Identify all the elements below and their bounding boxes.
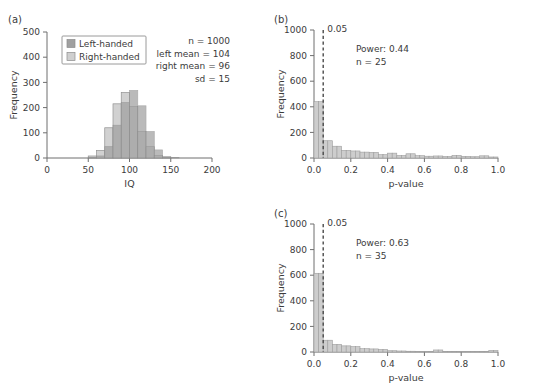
x-tick-label: 50 bbox=[83, 165, 95, 175]
y-tick-label: 600 bbox=[290, 270, 307, 280]
histogram-bar bbox=[429, 351, 434, 352]
histogram-bar bbox=[443, 351, 448, 352]
x-tick-label: 150 bbox=[162, 165, 179, 175]
chart-b: 020040060080010000.00.20.40.60.81.0p-val… bbox=[266, 0, 534, 195]
histogram-bar bbox=[105, 147, 113, 158]
histogram-bar bbox=[355, 151, 360, 158]
histogram-series-pvalue bbox=[314, 273, 498, 352]
histogram-bar bbox=[97, 156, 105, 158]
histogram-bar bbox=[369, 349, 374, 352]
histogram-bar bbox=[461, 351, 466, 352]
x-tick-label: 0.8 bbox=[454, 359, 469, 369]
x-axis-title: p-value bbox=[388, 372, 423, 383]
histogram-bar bbox=[360, 152, 365, 158]
histogram-bar bbox=[392, 351, 397, 352]
histogram-bar bbox=[493, 157, 498, 158]
x-tick-label: 100 bbox=[121, 165, 138, 175]
x-tick-label: 0.0 bbox=[307, 165, 322, 175]
histogram-bar bbox=[457, 155, 462, 158]
x-tick-label: 200 bbox=[203, 165, 220, 175]
histogram-bar bbox=[447, 351, 452, 352]
histogram-bar bbox=[406, 351, 411, 352]
histogram-series-left-handed bbox=[88, 90, 179, 158]
legend-swatch-left-handed bbox=[67, 40, 75, 48]
x-tick-label: 1.0 bbox=[491, 359, 506, 369]
histogram-bar bbox=[351, 347, 356, 352]
histogram-bar bbox=[470, 157, 475, 158]
x-tick-label: 0 bbox=[44, 165, 50, 175]
histogram-bar bbox=[434, 350, 439, 352]
histogram-bar bbox=[121, 103, 129, 158]
histogram-bar bbox=[374, 349, 379, 352]
histogram-bar bbox=[138, 106, 146, 158]
histogram-bar bbox=[163, 156, 171, 158]
y-axis-title: Frequency bbox=[8, 70, 19, 119]
histogram-bar bbox=[397, 351, 402, 352]
panel-a: (a) 0100200300400500050100150200IQFreque… bbox=[0, 0, 268, 195]
histogram-bar bbox=[411, 154, 416, 158]
histogram-bar bbox=[434, 156, 439, 158]
chart-c: 020040060080010000.00.20.40.60.81.0p-val… bbox=[266, 194, 534, 389]
histogram-bar bbox=[314, 273, 319, 352]
y-tick-label: 200 bbox=[290, 322, 307, 332]
histogram-bar bbox=[475, 157, 480, 158]
x-tick-label: 0.2 bbox=[344, 165, 358, 175]
histogram-bar bbox=[355, 347, 360, 352]
annotation-line: right mean = 96 bbox=[156, 61, 231, 71]
histogram-bar bbox=[397, 155, 402, 158]
histogram-bar bbox=[489, 350, 494, 352]
chart-a: 0100200300400500050100150200IQFrequencyL… bbox=[0, 0, 268, 195]
y-tick-label: 800 bbox=[290, 51, 307, 61]
panel-a-tag: (a) bbox=[8, 14, 22, 25]
histogram-bar bbox=[346, 150, 351, 158]
x-tick-label: 0.0 bbox=[307, 359, 322, 369]
histogram-bar bbox=[484, 156, 489, 158]
annotation-line: Power: 0.63 bbox=[356, 238, 409, 248]
y-tick-label: 400 bbox=[23, 52, 40, 62]
histogram-bar bbox=[406, 154, 411, 158]
histogram-bar bbox=[378, 155, 383, 158]
legend-label-right-handed: Right-handed bbox=[79, 52, 140, 62]
histogram-bar bbox=[415, 156, 420, 158]
x-tick-label: 0.8 bbox=[454, 165, 469, 175]
histogram-series-pvalue bbox=[314, 102, 498, 158]
histogram-bar bbox=[342, 346, 347, 352]
histogram-bar bbox=[466, 156, 471, 158]
panel-c: (c) 020040060080010000.00.20.40.60.81.0p… bbox=[266, 194, 534, 389]
histogram-bar bbox=[429, 156, 434, 158]
histogram-bar bbox=[113, 125, 121, 158]
histogram-bar bbox=[342, 150, 347, 158]
annotation-line: sd = 15 bbox=[195, 74, 230, 84]
x-tick-label: 0.6 bbox=[417, 359, 432, 369]
histogram-bar bbox=[461, 156, 466, 158]
histogram-bar bbox=[388, 351, 393, 352]
histogram-bar bbox=[337, 146, 342, 158]
histogram-bar bbox=[420, 156, 425, 158]
panel-b: (b) 020040060080010000.00.20.40.60.81.0p… bbox=[266, 0, 534, 195]
histogram-bar bbox=[438, 350, 443, 352]
histogram-bar bbox=[493, 350, 498, 352]
histogram-bar bbox=[154, 150, 162, 158]
histogram-bar bbox=[337, 344, 342, 352]
annotation-line: n = 25 bbox=[356, 57, 386, 67]
histogram-bar bbox=[420, 351, 425, 352]
y-tick-label: 200 bbox=[23, 103, 40, 113]
histogram-bar bbox=[466, 351, 471, 352]
legend-swatch-right-handed bbox=[67, 53, 75, 61]
histogram-bar bbox=[346, 346, 351, 352]
histogram-bar bbox=[365, 152, 370, 158]
histogram-bar bbox=[452, 155, 457, 158]
histogram-bar bbox=[383, 155, 388, 158]
y-tick-label: 1000 bbox=[284, 219, 307, 229]
y-axis-title: Frequency bbox=[275, 263, 286, 312]
x-tick-label: 0.4 bbox=[380, 359, 395, 369]
x-axis-title: p-value bbox=[388, 178, 423, 189]
histogram-bar bbox=[171, 157, 179, 158]
y-tick-label: 0 bbox=[301, 153, 307, 163]
x-tick-label: 0.2 bbox=[344, 359, 358, 369]
histogram-bar bbox=[314, 102, 319, 158]
histogram-bar bbox=[328, 141, 333, 158]
histogram-bar bbox=[480, 156, 485, 158]
histogram-bar bbox=[130, 90, 138, 158]
histogram-bar bbox=[332, 344, 337, 352]
